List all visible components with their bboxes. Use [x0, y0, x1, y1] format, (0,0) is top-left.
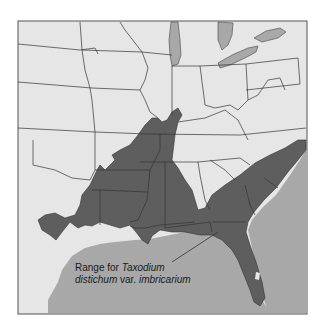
legend-genus: Taxodium — [122, 262, 165, 273]
legend-rank: var. — [117, 274, 139, 285]
legend-prefix: Range for — [75, 262, 122, 273]
legend-variety: imbricarium — [139, 274, 191, 285]
range-legend-label: Range for Taxodium distichum var. imbric… — [75, 262, 191, 286]
legend-species: distichum — [75, 274, 117, 285]
